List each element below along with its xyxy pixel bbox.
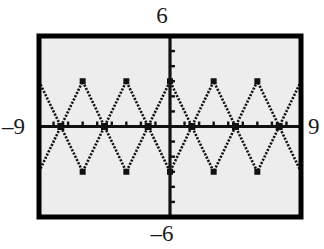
intersection-dot [211,169,217,175]
axis-crossing-dot [101,123,108,130]
axis-crossing-dot [145,123,152,130]
plot-area [0,0,324,249]
axis-crossing-dot [276,123,283,130]
graph-figure: 6 –6 –9 9 [0,0,324,249]
axis-crossing-dot [57,123,64,130]
intersection-dot [123,78,129,84]
intersection-dot [211,78,217,84]
axis-crossing-dot [232,123,239,130]
intersection-dot [254,169,260,175]
intersection-dot [167,169,173,175]
intersection-dot [123,169,129,175]
intersection-dot [80,78,86,84]
axis-crossing-dot [188,123,195,130]
intersection-dot [167,78,173,84]
intersection-dot [80,169,86,175]
intersection-dot [254,78,260,84]
